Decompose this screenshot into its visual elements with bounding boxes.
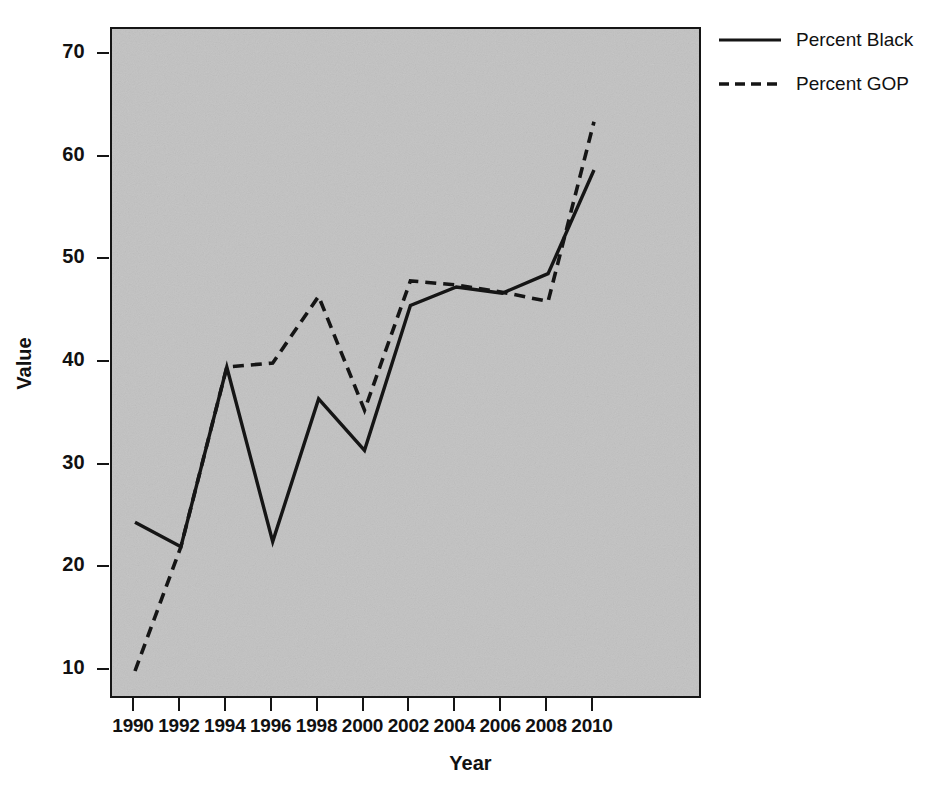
x-tick-mark xyxy=(499,698,501,711)
y-axis-title: Value xyxy=(13,304,36,424)
plot-area xyxy=(110,27,701,698)
legend: Percent Black Percent GOP xyxy=(718,18,933,106)
y-tick-mark xyxy=(97,360,109,362)
y-tick-mark xyxy=(97,52,109,54)
y-tick-mark xyxy=(97,565,109,567)
y-tick-mark xyxy=(97,155,109,157)
y-tick-label: 60 xyxy=(19,143,85,166)
x-tick-mark xyxy=(407,698,409,711)
x-tick-mark xyxy=(545,698,547,711)
y-tick-mark xyxy=(97,257,109,259)
legend-label-1: Percent GOP xyxy=(796,73,909,95)
x-tick-mark xyxy=(178,698,180,711)
legend-line-solid-icon xyxy=(718,33,782,47)
series-line-percent-black xyxy=(135,170,594,547)
x-tick-mark xyxy=(591,698,593,711)
x-tick-mark xyxy=(132,698,134,711)
y-tick-mark xyxy=(97,668,109,670)
x-tick-mark xyxy=(362,698,364,711)
x-tick-mark xyxy=(316,698,318,711)
legend-label-0: Percent Black xyxy=(796,29,913,51)
y-tick-label: 30 xyxy=(19,451,85,474)
x-tick-mark xyxy=(453,698,455,711)
x-tick-label: 2010 xyxy=(557,715,627,737)
legend-item-0: Percent Black xyxy=(718,18,933,62)
y-tick-label: 20 xyxy=(19,553,85,576)
legend-item-1: Percent GOP xyxy=(718,62,933,106)
x-tick-mark xyxy=(224,698,226,711)
x-axis-title: Year xyxy=(0,752,941,775)
legend-line-dashed-icon xyxy=(718,77,782,91)
series-line-percent-gop xyxy=(135,122,594,671)
y-tick-label: 10 xyxy=(19,656,85,679)
x-tick-mark xyxy=(270,698,272,711)
y-tick-mark xyxy=(97,463,109,465)
line-chart-figure: 70605040302010 1990199219941996199820002… xyxy=(0,0,941,798)
y-tick-label: 50 xyxy=(19,245,85,268)
series-lines xyxy=(112,29,701,698)
y-tick-label: 70 xyxy=(19,40,85,63)
